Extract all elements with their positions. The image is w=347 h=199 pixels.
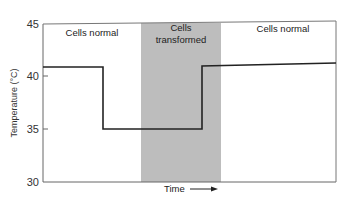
transformed-region-shade (141, 23, 221, 182)
y-axis-label: Temperature (°C) (9, 68, 19, 137)
y-tick-label-35: 35 (27, 123, 39, 135)
region-label-left: Cells normal (66, 27, 119, 38)
region-label-mid-line1: Cells (170, 22, 191, 33)
arrow-right-icon (190, 187, 218, 192)
region-label-right: Cells normal (257, 23, 310, 34)
temperature-chart: 45 40 35 30 Temperature (°C) Cells norma… (0, 0, 347, 199)
y-tick-label-30: 30 (27, 176, 39, 188)
y-tick-label-45: 45 (27, 18, 39, 30)
x-axis-label: Time (164, 183, 185, 194)
y-tick-label-40: 40 (27, 70, 39, 82)
region-label-mid-line2: transformed (156, 34, 207, 45)
